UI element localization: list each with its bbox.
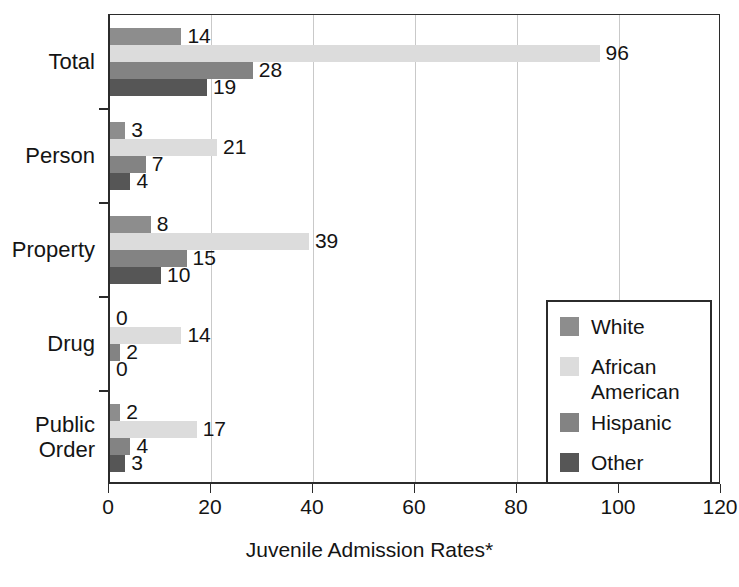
bar-value-label: 28: [259, 58, 282, 82]
bar: [110, 455, 125, 472]
legend-item: African American: [560, 354, 680, 404]
bar: [110, 139, 217, 156]
bar-value-label: 3: [131, 451, 143, 475]
y-axis-tick: [99, 108, 109, 110]
legend: WhiteAfrican AmericanHispanicOther: [546, 300, 712, 484]
bar: [110, 28, 181, 45]
y-axis-category-label-group: Property: [0, 237, 95, 262]
bar-value-label: 14: [187, 24, 210, 48]
x-axis-tick: [516, 484, 517, 493]
legend-item: White: [560, 314, 645, 339]
y-axis-tick: [99, 202, 109, 204]
x-axis-tick-label: 80: [481, 495, 551, 519]
bar: [110, 216, 151, 233]
bar: [110, 421, 197, 438]
bar-value-label: 8: [157, 212, 169, 236]
gridline-40: [313, 15, 314, 482]
x-axis-tick: [618, 484, 619, 493]
legend-swatch-icon: [560, 453, 579, 472]
bar: [110, 327, 181, 344]
bar-value-label: 7: [152, 152, 164, 176]
x-axis-tick: [210, 484, 211, 493]
legend-swatch-icon: [560, 413, 579, 432]
y-axis-tick: [99, 296, 109, 298]
legend-swatch-icon: [560, 317, 579, 336]
bar-value-label: 15: [193, 246, 216, 270]
x-axis-tick-label: 40: [277, 495, 347, 519]
x-axis-tick: [414, 484, 415, 493]
legend-label: Other: [591, 450, 644, 475]
bar-value-label: 17: [203, 417, 226, 441]
bar: [110, 267, 161, 284]
bar-value-label: 2: [126, 340, 138, 364]
bar: [110, 173, 130, 190]
y-axis-tick: [99, 390, 109, 392]
bar: [110, 79, 207, 96]
legend-item: Hispanic: [560, 410, 672, 435]
x-axis-tick-label: 20: [175, 495, 245, 519]
y-axis-category-label: Total: [49, 49, 95, 74]
bar-value-label: 14: [187, 323, 210, 347]
bar-value-label: 0: [116, 357, 128, 381]
bar-value-label: 0: [116, 306, 128, 330]
x-axis-tick: [108, 484, 109, 493]
juvenile-admission-rates-chart: 149628193217483915100142021743 TotalPers…: [0, 0, 739, 587]
bar-value-label: 2: [126, 400, 138, 424]
bar: [110, 122, 125, 139]
x-axis-tick-label: 120: [685, 495, 739, 519]
legend-label: African American: [591, 354, 680, 404]
x-axis-tick: [312, 484, 313, 493]
gridline-80: [517, 15, 518, 482]
bar-value-label: 10: [167, 263, 190, 287]
y-axis-category-label-group: Drug: [0, 331, 95, 356]
y-axis-category-label: Public: [35, 412, 95, 437]
y-axis-category-label-group: Total: [0, 49, 95, 74]
legend-label: White: [591, 314, 645, 339]
y-axis-category-label-group: PublicOrder: [0, 412, 95, 462]
bar-value-label: 4: [136, 169, 148, 193]
x-axis-tick-label: 60: [379, 495, 449, 519]
legend-item: Other: [560, 450, 644, 475]
bar-value-label: 96: [606, 41, 629, 65]
bar-value-label: 39: [315, 229, 338, 253]
bar: [110, 45, 600, 62]
bar-value-label: 21: [223, 135, 246, 159]
x-axis-tick-label: 100: [583, 495, 653, 519]
bar: [110, 404, 120, 421]
x-axis-title: Juvenile Admission Rates*: [0, 538, 739, 562]
legend-swatch-icon: [560, 357, 579, 376]
y-axis-category-label: Drug: [47, 331, 95, 356]
gridline-60: [415, 15, 416, 482]
y-axis-category-label: Person: [25, 143, 95, 168]
bar-value-label: 19: [213, 75, 236, 99]
x-axis-tick: [720, 484, 721, 493]
legend-label: Hispanic: [591, 410, 672, 435]
y-axis-category-label-group: Person: [0, 143, 95, 168]
bar: [110, 438, 130, 455]
bar-value-label: 3: [131, 118, 143, 142]
y-axis-category-label: Order: [39, 437, 95, 462]
y-axis-category-label: Property: [12, 237, 95, 262]
x-axis-tick-label: 0: [73, 495, 143, 519]
